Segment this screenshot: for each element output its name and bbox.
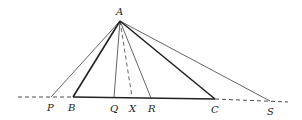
- side-ab: [73, 21, 120, 97]
- label-c: C: [211, 104, 219, 115]
- segment-aq: [114, 21, 120, 97]
- baseline-right-dashed: [215, 99, 288, 102]
- geometry-diagram: A P B Q X R C S: [0, 0, 302, 120]
- side-ac: [120, 21, 215, 99]
- segment-ar: [120, 21, 151, 98]
- label-s: S: [267, 106, 274, 117]
- label-x: X: [128, 103, 137, 114]
- side-bc: [73, 97, 215, 99]
- segment-as: [120, 21, 270, 101]
- label-a: A: [115, 6, 123, 17]
- segment-ax-dashed: [120, 21, 132, 97]
- segment-ap: [51, 21, 120, 97]
- label-q: Q: [110, 103, 118, 114]
- label-r: R: [147, 103, 156, 114]
- label-b: B: [67, 102, 75, 113]
- label-p: P: [46, 102, 54, 113]
